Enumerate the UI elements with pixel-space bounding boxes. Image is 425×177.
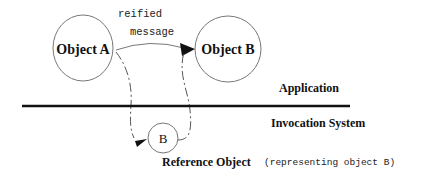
diagram-canvas: Object A Object B reified message Applic… (0, 0, 425, 177)
edge-label-reified: reified (118, 8, 162, 20)
reference-object-title: Reference Object (162, 155, 251, 169)
edge-label-message: message (130, 26, 174, 38)
dashed-path-ref-to-b (178, 52, 191, 140)
object-b-node: Object B (195, 16, 261, 82)
invocation-system-label: Invocation System (271, 116, 365, 130)
object-b-label: Object B (201, 42, 254, 57)
ref-arrowhead-icon (135, 139, 147, 147)
object-a-node: Object A (53, 15, 113, 81)
message-arrow (116, 43, 184, 50)
reference-object-node: B (148, 123, 178, 153)
dashed-path-a-to-ref (116, 52, 134, 138)
application-layer-label: Application (279, 81, 339, 95)
arrowhead-icon (180, 43, 195, 56)
reference-object-note: (representing object B) (264, 157, 395, 168)
reference-object-b-label: B (159, 131, 168, 146)
object-a-label: Object A (56, 42, 110, 57)
